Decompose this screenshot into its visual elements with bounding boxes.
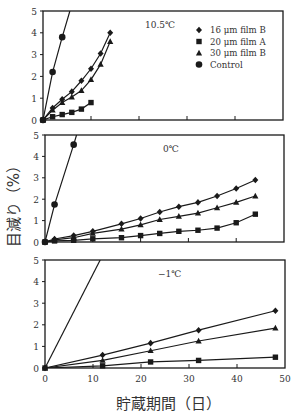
y-tick-label: 1	[33, 342, 39, 352]
y-tick-label: 3	[31, 50, 37, 60]
y-tick-label: 2	[33, 320, 39, 330]
legend-label: 16 μm film B	[210, 25, 266, 35]
panel-temperature-label: −1℃	[158, 269, 181, 279]
triangle-marker	[98, 61, 104, 67]
y-tick-label: 5	[33, 256, 39, 266]
circle-marker	[51, 201, 58, 208]
y-tick-label: 4	[33, 152, 39, 162]
series-line	[43, 11, 70, 120]
legend-square-icon	[196, 39, 201, 44]
square-marker	[214, 225, 219, 230]
series-line	[45, 357, 275, 368]
square-marker	[69, 110, 74, 115]
triangle-marker	[252, 193, 258, 199]
square-marker	[234, 220, 239, 225]
y-tick-label: 0	[33, 238, 39, 248]
circle-marker	[59, 34, 66, 41]
circle-marker	[40, 117, 47, 124]
triangle-marker	[272, 325, 278, 331]
square-marker	[119, 235, 124, 240]
diamond-marker	[107, 30, 113, 37]
diamond-marker	[157, 209, 163, 216]
panel-temperature-label: 0℃	[163, 144, 179, 154]
series-line	[45, 311, 275, 368]
series-line	[45, 214, 255, 242]
series-line	[45, 180, 255, 242]
y-tick-label: 3	[33, 173, 39, 183]
legend-label: 20 μm film A	[210, 37, 266, 47]
y-tick-label: 2	[31, 72, 37, 82]
square-marker	[90, 236, 95, 241]
x-tick-label: 0	[42, 374, 48, 384]
legend-triangle-icon	[196, 50, 202, 56]
square-marker	[100, 363, 105, 368]
x-tick-label: 40	[231, 374, 243, 384]
square-marker	[196, 358, 201, 363]
diamond-marker	[214, 193, 220, 200]
triangle-marker	[107, 38, 113, 44]
diamond-marker	[196, 327, 202, 334]
y-axis-label-text: 目減り（%）	[3, 157, 24, 246]
panel-temperature-label: 10.5℃	[145, 20, 175, 30]
x-tick-label: 10	[87, 374, 99, 384]
legend-circle-icon	[196, 61, 203, 68]
x-axis-label: 貯蔵期間（日）	[0, 392, 297, 413]
chart-panel-2: 01234501020304050−1℃	[33, 256, 291, 385]
series-line	[45, 135, 77, 242]
square-marker	[50, 114, 55, 119]
chart-panel-0: 01234510.5℃16 μm film B20 μm film A30 μm…	[31, 7, 283, 126]
square-marker	[138, 233, 143, 238]
y-tick-label: 0	[33, 364, 39, 374]
square-marker	[60, 112, 65, 117]
diamond-marker	[252, 177, 258, 184]
y-tick-label: 5	[31, 7, 37, 17]
diamond-marker	[233, 185, 239, 192]
y-tick-label: 0	[31, 116, 37, 126]
square-marker	[148, 359, 153, 364]
chart-panel-1: 0123450℃	[33, 131, 284, 248]
y-tick-label: 1	[31, 94, 37, 104]
square-marker	[88, 100, 93, 105]
circle-marker	[49, 69, 56, 76]
triangle-marker	[69, 94, 75, 100]
x-tick-label: 50	[279, 374, 291, 384]
legend-label: 30 μm film B	[210, 48, 266, 58]
series-line	[45, 260, 100, 368]
square-marker	[79, 106, 84, 111]
legend-label: Control	[210, 60, 243, 70]
circle-marker	[42, 239, 49, 246]
y-tick-label: 4	[33, 277, 39, 287]
square-marker	[157, 231, 162, 236]
legend-diamond-icon	[196, 27, 202, 34]
y-tick-label: 3	[33, 299, 39, 309]
y-axis-label: 目減り（%）	[2, 162, 24, 242]
y-tick-label: 4	[31, 28, 37, 38]
diamond-marker	[176, 203, 182, 210]
diamond-marker	[138, 215, 144, 222]
x-tick-label: 20	[135, 374, 147, 384]
diamond-marker	[195, 199, 201, 206]
diamond-marker	[272, 307, 278, 314]
square-marker	[176, 229, 181, 234]
legend: 16 μm film B20 μm film A30 μm film BCont…	[196, 25, 267, 70]
diamond-marker	[148, 340, 154, 347]
circle-marker	[70, 141, 77, 148]
square-marker	[273, 355, 278, 360]
y-tick-label: 1	[33, 216, 39, 226]
chart-canvas: 01234510.5℃16 μm film B20 μm film A30 μm…	[0, 0, 297, 416]
x-tick-label: 30	[183, 374, 195, 384]
y-tick-label: 2	[33, 195, 39, 205]
y-tick-label: 5	[33, 131, 39, 141]
square-marker	[253, 211, 258, 216]
square-marker	[195, 228, 200, 233]
